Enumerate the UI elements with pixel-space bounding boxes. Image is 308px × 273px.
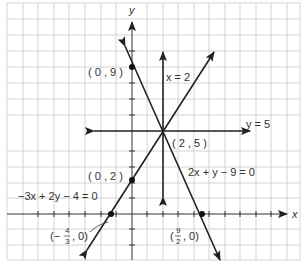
label-point-2-5: ( 2 , 5 ) [172, 137, 207, 149]
svg-text:9: 9 [176, 226, 181, 235]
label-2x-plus-y-minus-9: 2x + y − 9 = 0 [188, 166, 255, 178]
coordinate-plane: y x ( 0 , 9 ) ( 0 , 2 ) ( 2 , 5 ) x = 2 … [0, 0, 308, 273]
x-axis-label: x [291, 208, 298, 220]
point-0-2 [129, 177, 135, 183]
label-y-equals-5: y = 5 [246, 118, 270, 130]
label-point-0-2: ( 0 , 2 ) [88, 170, 123, 182]
point-0-9 [129, 64, 135, 70]
svg-text:2: 2 [176, 237, 181, 246]
label-x-equals-2: x = 2 [166, 71, 190, 83]
svg-text:(: ( [170, 230, 174, 242]
point-neg4-3-0 [108, 211, 114, 217]
label-point-neg4-3-0: (− 4 3 , 0) [50, 222, 108, 246]
label-neg3x-plus-2y-minus-4: −3x + 2y − 4 = 0 [18, 190, 98, 202]
svg-text:, 0): , 0) [72, 230, 88, 242]
label-point-0-9: ( 0 , 9 ) [88, 66, 123, 78]
y-axis-label: y [128, 4, 136, 16]
svg-text:3: 3 [65, 237, 70, 246]
svg-text:, 0): , 0) [183, 230, 199, 242]
svg-text:4: 4 [65, 226, 70, 235]
svg-text:(−: (− [50, 230, 60, 242]
point-9-2-0 [199, 211, 205, 217]
